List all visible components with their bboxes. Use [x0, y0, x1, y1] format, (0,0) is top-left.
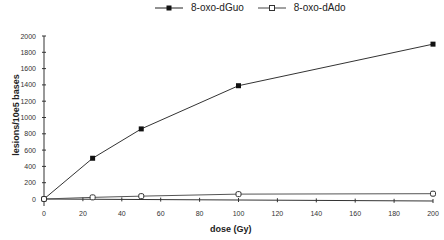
data-point [90, 156, 95, 161]
x-tick-label: 180 [388, 210, 400, 217]
x-tick-label: 60 [157, 210, 165, 217]
data-point [431, 191, 436, 196]
x-tick-label: 200 [427, 210, 439, 217]
data-point [236, 83, 241, 88]
y-tick-label: 1200 [20, 98, 36, 105]
line-chart: 0200400600800100012001400160018002000020… [0, 0, 444, 240]
series-layer [42, 42, 436, 202]
y-tick-label: 600 [24, 147, 36, 154]
data-point [236, 192, 241, 197]
x-tick-label: 40 [118, 210, 126, 217]
x-tick-label: 20 [79, 210, 87, 217]
x-tick-label: 100 [233, 210, 245, 217]
y-tick-label: 1400 [20, 81, 36, 88]
y-tick-label: 0 [32, 196, 36, 203]
series-8-oxo-dguo [42, 42, 436, 202]
x-tick-label: 120 [272, 210, 284, 217]
x-tick-label: 0 [42, 210, 46, 217]
y-tick-label: 1800 [20, 49, 36, 56]
y-tick-label: 800 [24, 130, 36, 137]
y-tick-label: 1000 [20, 114, 36, 121]
data-point [139, 194, 144, 199]
y-tick-label: 200 [24, 179, 36, 186]
data-point [90, 195, 95, 200]
data-point [431, 42, 436, 47]
x-tick-label: 80 [196, 210, 204, 217]
y-tick-label: 2000 [20, 33, 36, 40]
data-point [42, 197, 47, 202]
y-tick-label: 400 [24, 163, 36, 170]
x-tick-label: 160 [349, 210, 361, 217]
data-point [139, 126, 144, 131]
axes: 0200400600800100012001400160018002000020… [20, 33, 439, 218]
x-tick-label: 140 [310, 210, 322, 217]
y-tick-label: 1600 [20, 65, 36, 72]
